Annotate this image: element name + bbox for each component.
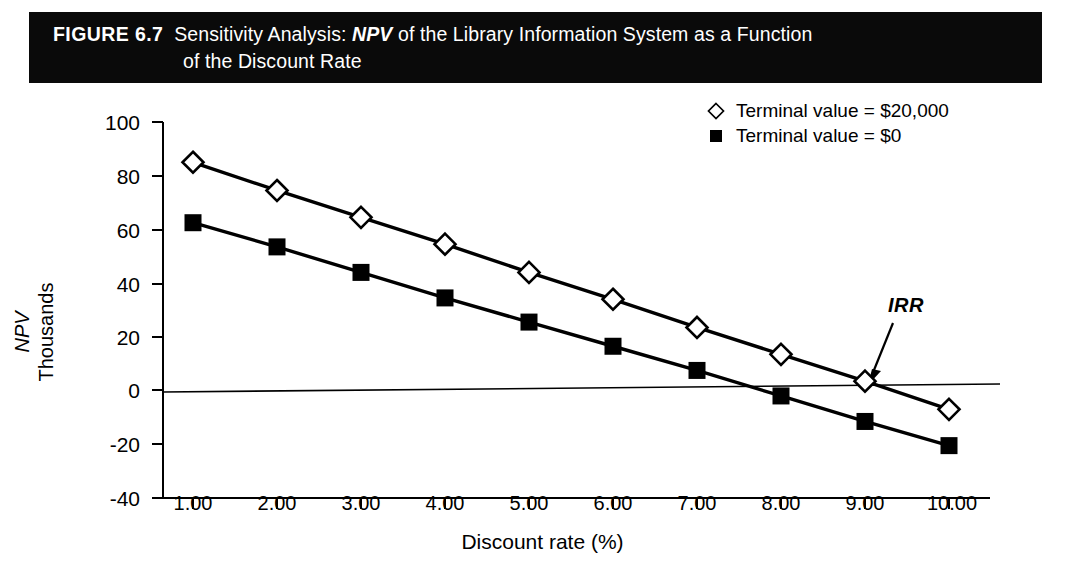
open-diamond-icon [771,344,792,365]
open-diamond-icon [267,180,288,201]
series-1 [183,152,960,420]
chart-area: Terminal value = $20,000 Terminal value … [0,83,1067,581]
filled-square-icon [437,289,454,306]
filled-square-icon [269,238,286,255]
open-diamond-icon [351,207,372,228]
filled-square-icon [689,362,706,379]
filled-square-icon [521,314,538,331]
open-diamond-icon [435,234,456,255]
figure-title-text-pre: Sensitivity Analysis: [174,23,352,45]
open-diamond-icon [603,289,624,310]
filled-square-icon [941,437,958,454]
figure-title-bar: FIGURE 6.7 Sensitivity Analysis: NPV of … [29,12,1042,83]
series-line [193,162,949,409]
series-2 [185,214,958,454]
series-layer [183,152,960,454]
figure-title-text-post: of the Library Information System as a F… [392,23,812,45]
plot-canvas [0,83,1067,581]
filled-square-icon [185,214,202,231]
filled-square-icon [353,264,370,281]
open-diamond-icon [183,152,204,173]
open-diamond-icon [687,317,708,338]
open-diamond-icon [939,399,960,420]
figure-number-label: FIGURE 6.7 [53,23,163,45]
y-axis-ticks [152,122,163,498]
filled-square-icon [605,338,622,355]
filled-square-icon [857,413,874,430]
figure-title-line-2: of the Discount Rate [53,48,1024,75]
axis-lines [163,122,990,498]
filled-square-icon [773,387,790,404]
figure-title-line-1: FIGURE 6.7 Sensitivity Analysis: NPV of … [53,21,1024,48]
figure-title-npv-italic: NPV [352,23,392,45]
open-diamond-icon [519,262,540,283]
series-line [193,223,949,446]
x-axis-ticks [193,498,949,509]
